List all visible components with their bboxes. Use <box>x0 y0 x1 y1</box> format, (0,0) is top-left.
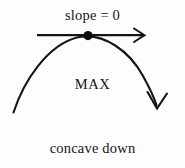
curve-arrowhead-icon <box>148 92 168 109</box>
concave-down-curve <box>14 36 157 112</box>
max-label: MAX <box>0 77 185 92</box>
concave-down-caption: concave down <box>0 141 185 156</box>
slope-label: slope = 0 <box>0 8 185 23</box>
concave-down-max-figure: slope = 0 MAX concave down <box>0 0 185 168</box>
tangent-point <box>83 31 92 40</box>
